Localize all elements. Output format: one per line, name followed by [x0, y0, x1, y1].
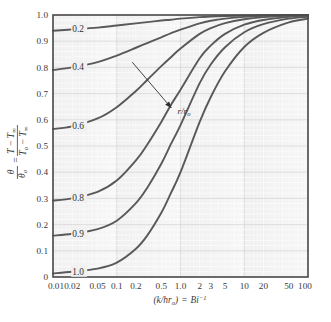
x-tick-3: 3	[209, 281, 214, 291]
xlab-exp: −1	[199, 294, 207, 301]
x-tick-20: 20	[259, 281, 269, 291]
curve-label-1-0: 1.0	[72, 267, 84, 277]
y-tick-0-8: 0.8	[37, 63, 49, 73]
x-tick-1-0: 1.0	[175, 281, 187, 291]
x-tick-0-02: 0.02	[64, 281, 80, 291]
x-tick-10: 10	[240, 281, 250, 291]
curve-label-0-9: 0.9	[72, 229, 84, 239]
ylab-equals: =	[11, 157, 21, 163]
y-tick-1-0: 1.0	[37, 10, 49, 20]
heisler-position-correction-chart: 0.20.40.60.80.91.0 00.10.20.30.40.50.60.…	[0, 0, 331, 322]
x-tick-5: 5	[223, 281, 228, 291]
x-tick-100: 100	[298, 281, 312, 291]
y-tick-0-5: 0.5	[37, 141, 49, 151]
y-tick-0-7: 0.7	[37, 89, 49, 99]
x-tick-0-2: 0.2	[130, 281, 142, 291]
x-tick-0-01: 0.01	[48, 281, 64, 291]
y-tick-0-1: 0.1	[37, 246, 49, 256]
y-tick-0-3: 0.3	[37, 194, 49, 204]
x-tick-50: 50	[284, 281, 294, 291]
curve-label-0-2: 0.2	[72, 24, 84, 34]
x-tick-0-05: 0.05	[90, 281, 106, 291]
y-tick-0-6: 0.6	[37, 115, 49, 125]
xlab-equals: =	[181, 295, 187, 305]
y-tick-0-4: 0.4	[37, 167, 49, 177]
curve-label-0-4: 0.4	[72, 62, 84, 72]
y-axis-label: θ θo = T−T∞ To−T∞	[6, 125, 29, 179]
ylab-theta: θ	[6, 169, 16, 174]
y-tick-0-2: 0.2	[37, 220, 49, 230]
chart-canvas: 0.20.40.60.80.91.0 00.10.20.30.40.50.60.…	[0, 0, 331, 322]
x-tick-0-5: 0.5	[156, 281, 168, 291]
xlab-close: )	[174, 295, 178, 306]
curve-label-0-8: 0.8	[72, 193, 84, 203]
y-tick-0-9: 0.9	[37, 36, 49, 46]
curve-label-0-6: 0.6	[72, 121, 84, 131]
x-tick-0-1: 0.1	[111, 281, 123, 291]
x-tick-2: 2	[197, 281, 202, 291]
